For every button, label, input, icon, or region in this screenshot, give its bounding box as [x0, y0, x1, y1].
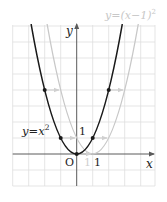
point-neg1-1 [59, 136, 63, 140]
base-curve-label: y=x2 [21, 123, 50, 138]
y-tick-label: 1 [79, 125, 86, 138]
point-neg2-4 [43, 88, 47, 92]
point-2-4 [107, 88, 111, 92]
point-0-0 [75, 152, 79, 156]
shifted-curve-label: y=(x−1)2 [104, 8, 156, 22]
x-axis-label: x [146, 157, 153, 171]
point-1-1 [91, 136, 95, 140]
origin-label: O [65, 156, 74, 169]
x-tick-label: 1 [94, 156, 101, 169]
y-axis-label: y [65, 24, 73, 38]
parabola-translation-diagram: y x O 1 1 1 y=x2 y=(x−1)2 [0, 0, 167, 202]
x-tick-label-shifted: 1 [84, 156, 91, 169]
